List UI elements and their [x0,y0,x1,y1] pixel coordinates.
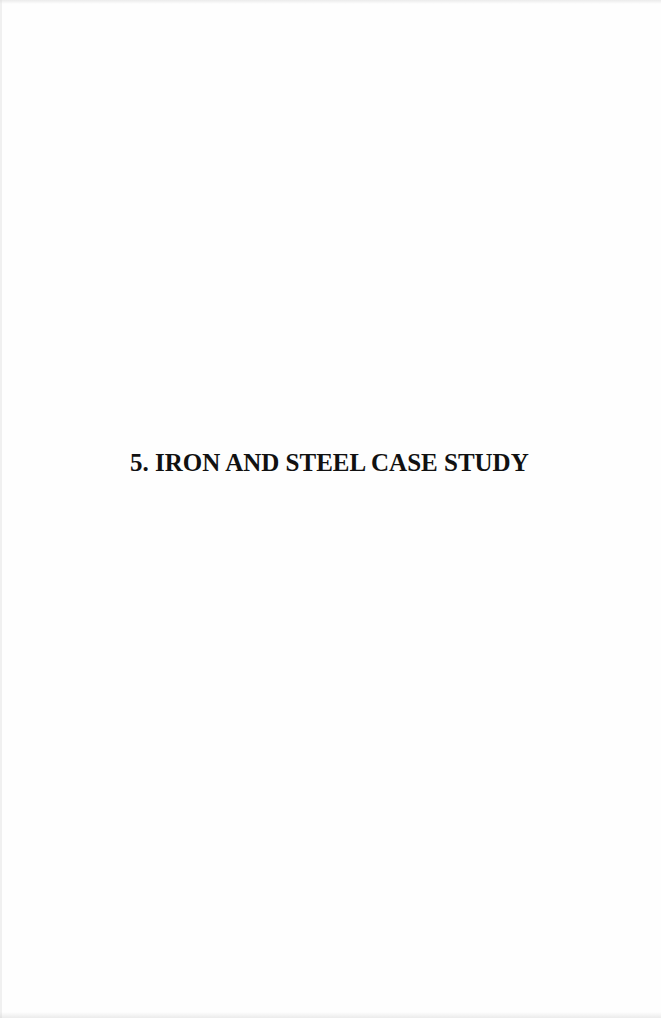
document-page: 5. IRON AND STEEL CASE STUDY [0,0,661,1018]
scan-edge-left [0,0,2,1018]
section-heading: 5. IRON AND STEEL CASE STUDY [130,449,529,477]
scan-edge-top [0,0,661,4]
scan-edge-bottom [0,1012,661,1018]
